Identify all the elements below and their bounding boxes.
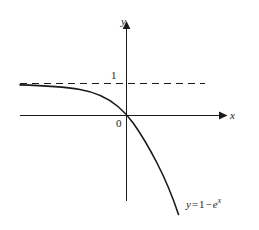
origin-label: 0 (116, 118, 122, 129)
y-tick-label-1: 1 (111, 70, 117, 81)
equation-equals: = (191, 198, 199, 210)
equation-one: 1 (199, 198, 205, 210)
equation-minus: − (205, 198, 213, 210)
math-figure-container: y x 1 0 y=1−ex (0, 0, 259, 230)
y-axis-label: y (121, 16, 126, 27)
equation-exponent: x (218, 196, 221, 205)
exponential-curve (20, 85, 179, 215)
curve-equation-label: y=1−ex (186, 199, 221, 210)
x-axis-arrowhead-icon (219, 112, 228, 120)
x-axis-label: x (230, 110, 235, 121)
